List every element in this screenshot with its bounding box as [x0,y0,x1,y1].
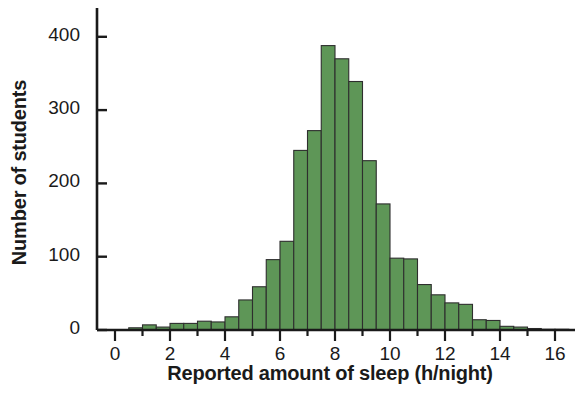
x-tick-label: 12 [425,343,465,365]
histogram-bar [390,258,404,330]
histogram-bar [431,295,445,330]
histogram-bar [349,82,363,330]
x-tick-label: 10 [370,343,410,365]
histogram-bar [280,241,294,330]
histogram-bar [459,304,473,330]
histogram-bar [321,46,335,330]
histogram-bar [239,300,253,330]
histogram-bar [418,285,432,330]
histogram-bar [308,131,322,330]
x-tick-label: 16 [535,343,575,365]
histogram-bar [404,259,418,330]
y-tick-label: 100 [28,244,80,266]
x-tick-label: 8 [315,343,355,365]
x-tick-label: 14 [480,343,520,365]
histogram-bar [253,287,267,330]
x-tick-label: 4 [205,343,245,365]
histogram-bar [294,150,308,330]
x-tick-label: 2 [150,343,190,365]
histogram-bar [445,303,459,330]
y-tick-label: 200 [28,170,80,192]
histogram-bar [266,260,280,330]
histogram-bar [363,161,377,330]
histogram-bar [335,59,349,330]
histogram-figure: Number of students Reported amount of sl… [0,0,583,415]
y-tick-label: 300 [28,97,80,119]
histogram-bar [225,317,239,330]
histogram-bar [486,320,500,330]
x-tick-label: 0 [95,343,135,365]
x-tick-label: 6 [260,343,300,365]
bars-group [129,46,569,330]
histogram-bar [198,321,212,330]
histogram-bar [473,320,487,330]
x-axis-label: Reported amount of sleep (h/night) [95,362,565,385]
y-tick-label: 0 [28,317,80,339]
histogram-bar [376,204,390,330]
y-tick-label: 400 [28,24,80,46]
